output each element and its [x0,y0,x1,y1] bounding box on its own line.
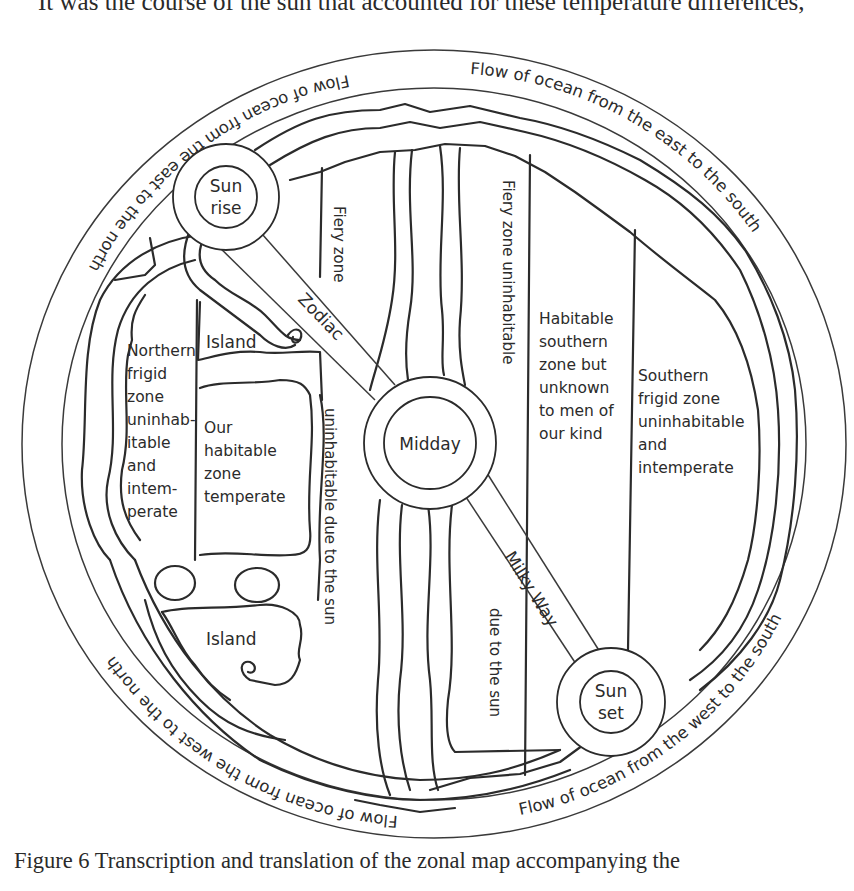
sunrise: Sun rise [173,144,279,250]
zodiac-edge-1 [212,240,375,400]
small-island-2 [235,568,279,602]
due-to-the-sun-label: due to the sun [486,608,504,717]
fiery-zone-label: Fiery zone [330,206,348,283]
river-sunrise-curl [288,330,301,343]
coast-bottom-right [430,740,590,790]
southern-frigid-left-line [628,230,635,650]
southern-frigid-line5: intemperate [638,459,734,477]
fiery-zone-left-line [320,168,322,277]
lower-island-west-coast [162,612,230,700]
southern-frigid-line2: frigid zone [638,390,720,408]
habitable-southern-line6: our kind [539,425,603,443]
northern-frigid-line6: and [127,457,156,475]
channel-3 [440,146,444,375]
habitable-southern-line4: unknown [539,379,609,397]
southern-frigid-line3: uninhabitable [638,413,745,431]
small-island-1 [155,566,195,600]
milky-way-label: Milky Way [501,548,563,631]
fiery-zone-uninhabitable-label: Fiery zone uninhabitable [499,180,517,364]
sunset-label-line1: Sun [595,681,627,701]
habitable-southern-left-line [525,155,530,775]
northern-frigid-line5: itable [127,434,171,452]
southern-frigid-line1: Southern [638,367,709,385]
sunset-label-line2: set [598,703,624,723]
southern-frigid-line4: and [638,436,667,454]
channel-4 [459,148,465,385]
northern-frigid-line1: Northern [127,342,196,360]
midday-sun: Midday [364,377,496,509]
channel-7 [427,505,438,790]
habitable-southern-line2: southern [539,333,608,351]
our-habitable-line4: temperate [204,488,286,506]
uninhabitable-due-to-sun-label: uninhabitable due to the sun [321,408,339,625]
northern-frigid-line7: intem- [127,480,177,498]
sunrise-label-line2: rise [210,198,241,218]
habitable-southern-line5: to men of [539,402,614,420]
our-habitable-line2: habitable [204,442,277,460]
northern-frigid-line8: perate [127,503,178,521]
island-label-lower: Island [206,629,257,649]
zonal-map-diagram: Flow of ocean from the east to the south… [0,0,854,891]
sunrise-label-line1: Sun [210,176,242,196]
sunset: Sun set [557,648,665,756]
our-habitable-line3: zone [204,465,241,483]
figure-caption: Figure 6 Transcription and translation o… [14,848,680,874]
island-label-upper: Island [206,332,257,352]
zone-divider-left [195,300,197,560]
river-sunrise-1 [200,235,300,340]
channel-6 [398,505,410,790]
northern-frigid-line3: zone [127,388,164,406]
northern-frigid-line2: frigid [127,365,167,383]
our-habitable-line1: Our [204,419,233,437]
channel-5 [377,500,390,795]
northern-frigid-line4: uninhab- [127,411,196,429]
channel-2 [406,150,413,380]
midday-label: Midday [399,434,460,454]
habitable-southern-line1: Habitable [539,310,614,328]
channel-1 [370,152,395,390]
habitable-southern-line3: zone but [539,356,607,374]
